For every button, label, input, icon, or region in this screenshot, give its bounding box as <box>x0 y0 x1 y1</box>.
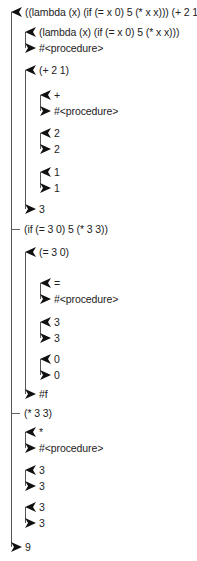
arrow-right-icon <box>40 370 54 380</box>
arrow-left-icon <box>40 167 54 177</box>
return-value: 3 <box>39 516 45 530</box>
trace-tail-row: (if (= 3 0) 5 (* 3 3)) <box>11 222 108 236</box>
trace-return-row: #f <box>25 387 48 401</box>
trace-call-row: 3 <box>40 315 60 329</box>
expression-text: (* 3 3) <box>24 406 52 420</box>
expression-text: = <box>54 276 60 290</box>
trace-call-row: = <box>40 276 60 290</box>
trace-call-row: * <box>25 425 43 439</box>
connector-line <box>11 12 12 547</box>
expression-text: (= 3 0) <box>39 245 69 259</box>
tail-call-dash-icon <box>11 229 20 230</box>
arrow-right-icon <box>25 389 39 399</box>
return-value: #<procedure> <box>39 41 103 55</box>
expression-text: (if (= 3 0) 5 (* 3 3)) <box>24 222 108 236</box>
evaluation-trace-diagram: ((lambda (x) (if (= x 0) 5 (* x x))) (+ … <box>0 0 197 561</box>
return-value: 1 <box>54 181 60 195</box>
expression-text: + <box>54 88 60 102</box>
tail-call-dash-icon <box>11 413 20 414</box>
trace-return-row: 3 <box>40 331 60 345</box>
return-value: 3 <box>39 202 45 216</box>
return-value: 9 <box>25 540 31 554</box>
expression-text: 1 <box>54 165 60 179</box>
expression-text: ((lambda (x) (if (= x 0) 5 (* x x))) (+ … <box>25 5 197 19</box>
return-value: #<procedure> <box>54 292 118 306</box>
return-value: #<procedure> <box>39 441 103 455</box>
expression-text: 3 <box>54 315 60 329</box>
arrow-left-icon <box>25 27 39 37</box>
arrow-right-icon <box>25 481 39 491</box>
arrow-right-icon <box>40 183 54 193</box>
trace-return-row: #<procedure> <box>40 104 118 118</box>
return-value: #<procedure> <box>54 104 118 118</box>
arrow-left-icon <box>40 278 54 288</box>
expression-text: 3 <box>39 500 45 514</box>
trace-tail-row: (* 3 3) <box>11 406 52 420</box>
expression-text: 2 <box>54 126 60 140</box>
trace-call-row: 3 <box>25 500 45 514</box>
expression-text: * <box>39 425 43 439</box>
arrow-right-icon <box>40 106 54 116</box>
trace-return-row: 9 <box>11 540 31 554</box>
expression-text: (+ 2 1) <box>39 63 69 77</box>
arrow-left-icon <box>25 465 39 475</box>
trace-call-row: 1 <box>40 165 60 179</box>
trace-call-row: ((lambda (x) (if (= x 0) 5 (* x x))) (+ … <box>11 5 197 19</box>
connector-line <box>25 70 26 209</box>
trace-return-row: 0 <box>40 368 60 382</box>
trace-return-row: 3 <box>25 516 45 530</box>
arrow-left-icon <box>40 317 54 327</box>
trace-return-row: 3 <box>25 202 45 216</box>
arrow-left-icon <box>40 354 54 364</box>
expression-text: (lambda (x) (if (= x 0) 5 (* x x))) <box>39 25 179 39</box>
trace-return-row: #<procedure> <box>25 41 103 55</box>
trace-call-row: (= 3 0) <box>25 245 69 259</box>
arrow-left-icon <box>25 65 39 75</box>
trace-return-row: 1 <box>40 181 60 195</box>
return-value: 3 <box>54 331 60 345</box>
expression-text: 3 <box>39 463 45 477</box>
expression-text: 0 <box>54 352 60 366</box>
trace-call-row: 0 <box>40 352 60 366</box>
arrow-right-icon <box>25 518 39 528</box>
return-value: #f <box>39 387 48 401</box>
arrow-right-icon <box>25 43 39 53</box>
connector-line <box>25 252 26 394</box>
trace-call-row: (+ 2 1) <box>25 63 69 77</box>
arrow-right-icon <box>40 144 54 154</box>
arrow-right-icon <box>40 333 54 343</box>
return-value: 3 <box>39 479 45 493</box>
arrow-right-icon <box>25 204 39 214</box>
arrow-left-icon <box>40 128 54 138</box>
trace-call-row: + <box>40 88 60 102</box>
arrow-left-icon <box>25 247 39 257</box>
trace-return-row: #<procedure> <box>25 441 103 455</box>
trace-return-row: #<procedure> <box>40 292 118 306</box>
trace-call-row: 2 <box>40 126 60 140</box>
return-value: 0 <box>54 368 60 382</box>
trace-return-row: 3 <box>25 479 45 493</box>
trace-return-row: 2 <box>40 142 60 156</box>
arrow-right-icon <box>40 294 54 304</box>
trace-call-row: 3 <box>25 463 45 477</box>
arrow-left-icon <box>11 7 25 17</box>
arrow-right-icon <box>11 542 25 552</box>
arrow-left-icon <box>25 502 39 512</box>
arrow-left-icon <box>40 90 54 100</box>
trace-call-row: (lambda (x) (if (= x 0) 5 (* x x))) <box>25 25 179 39</box>
arrow-left-icon <box>25 427 39 437</box>
arrow-right-icon <box>25 443 39 453</box>
return-value: 2 <box>54 142 60 156</box>
